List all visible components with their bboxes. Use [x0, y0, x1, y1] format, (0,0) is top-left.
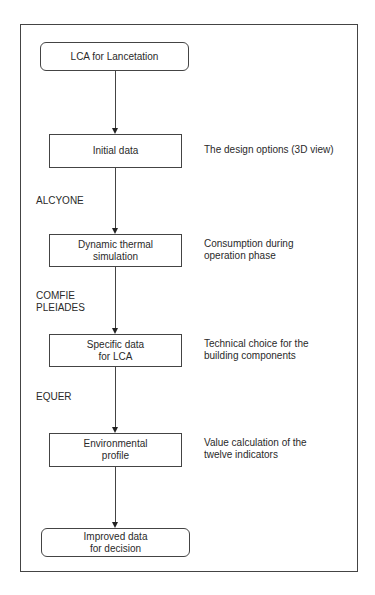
tool-label-alcyone: ALCYONE [36, 195, 84, 207]
end-label-line2: for decision [84, 543, 148, 555]
note-line1: Technical choice for the [204, 338, 309, 350]
specific-label-line1: Specific data [87, 339, 144, 351]
end-node: Improved data for decision [41, 528, 190, 557]
initial-data-label: Initial data [93, 145, 139, 157]
environmental-note: Value calculation of the twelve indicato… [204, 437, 307, 461]
note-line2: operation phase [204, 250, 294, 262]
thermal-note: Consumption during operation phase [204, 238, 294, 262]
connector-line [115, 168, 116, 228]
note-line2: twelve indicators [204, 449, 307, 461]
tool-label-comfie-pleiades: COMFIE PLEIADES [36, 290, 85, 314]
end-label-line1: Improved data [84, 531, 148, 543]
start-node: LCA for Lancetation [40, 42, 189, 71]
tool-line1: COMFIE [36, 290, 85, 302]
thermal-label-line1: Dynamic thermal [78, 239, 153, 251]
tool-text: EQUER [36, 391, 72, 402]
note-line2: building components [204, 350, 309, 362]
note-line1: Value calculation of the [204, 437, 307, 449]
note-line1: Consumption during [204, 238, 294, 250]
connector-line [115, 467, 116, 522]
specific-label-line2: for LCA [87, 351, 144, 363]
environmental-profile-node: Environmental profile [49, 433, 182, 467]
connector-line [115, 367, 116, 427]
note-text: The design options (3D view) [204, 144, 334, 155]
start-node-label: LCA for Lancetation [71, 51, 159, 63]
initial-data-node: Initial data [49, 134, 182, 168]
tool-text: ALCYONE [36, 195, 84, 206]
connector-line [115, 71, 116, 128]
environmental-label-line2: profile [84, 450, 148, 462]
initial-data-note: The design options (3D view) [204, 144, 334, 156]
specific-note: Technical choice for the building compon… [204, 338, 309, 362]
thermal-simulation-node: Dynamic thermal simulation [49, 234, 182, 267]
specific-data-node: Specific data for LCA [49, 334, 182, 367]
tool-label-equer: EQUER [36, 391, 72, 403]
thermal-label-line2: simulation [78, 251, 153, 263]
connector-line [115, 267, 116, 328]
environmental-label-line1: Environmental [84, 438, 148, 450]
tool-line2: PLEIADES [36, 302, 85, 314]
